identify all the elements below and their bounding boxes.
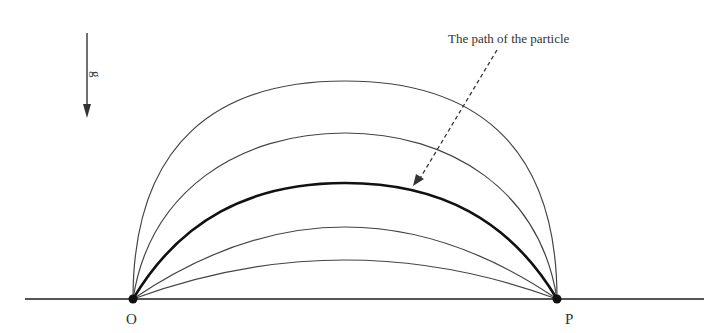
trajectory-curve-4 <box>133 227 557 299</box>
point-o-dot <box>129 295 138 304</box>
point-p-label: P <box>565 311 573 327</box>
point-p-dot <box>553 295 562 304</box>
projectile-diagram: g The path of the particle O P <box>0 0 727 333</box>
particle-path-curve <box>133 183 557 299</box>
annotation-label: The path of the particle <box>448 31 570 46</box>
point-o-label: O <box>126 311 137 327</box>
annotation-arrow-icon <box>413 50 497 186</box>
gravity-label: g <box>89 71 104 78</box>
trajectory-curves <box>133 81 557 299</box>
trajectory-curve-1 <box>133 81 557 299</box>
trajectory-curve-2 <box>133 133 557 299</box>
trajectory-curve-5 <box>133 260 557 299</box>
